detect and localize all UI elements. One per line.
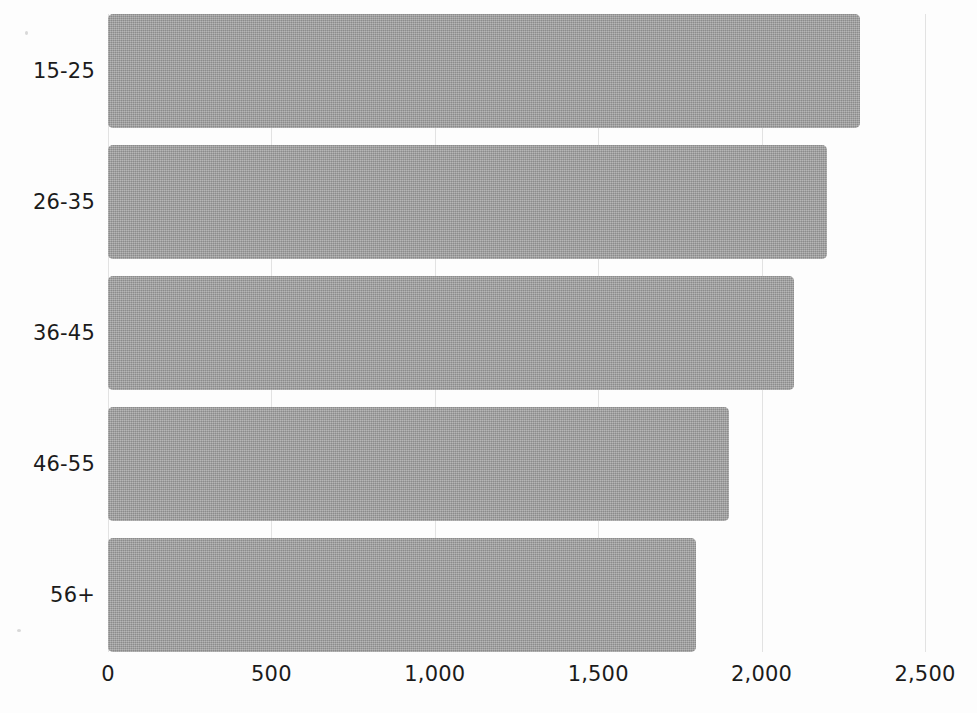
- bar-46-55: [108, 407, 729, 521]
- bar-chart-figure: 15-2526-3536-4546-5556+ 05001,0001,5002,…: [0, 0, 977, 713]
- x-axis-tick-label-1000: 1,000: [404, 662, 465, 686]
- bar-36-45: [108, 276, 794, 390]
- bar-26-35: [108, 145, 827, 259]
- x-axis-tick-label-2500: 2,500: [894, 662, 955, 686]
- bar-row: [108, 276, 794, 390]
- bar-56+: [108, 538, 696, 652]
- y-axis-label-26-35: 26-35: [0, 190, 95, 214]
- plot-area: [108, 14, 925, 652]
- x-axis-tick-label-2000: 2,000: [731, 662, 792, 686]
- y-axis-category-labels: 15-2526-3536-4546-5556+: [0, 14, 95, 652]
- y-axis-label-15-25: 15-25: [0, 59, 95, 83]
- bar-row: [108, 407, 729, 521]
- bar-15-25: [108, 14, 860, 128]
- x-axis-tick-label-1500: 1,500: [568, 662, 629, 686]
- y-axis-label-36-45: 36-45: [0, 321, 95, 345]
- bar-row: [108, 145, 827, 259]
- bar-row: [108, 538, 696, 652]
- bar-row: [108, 14, 860, 128]
- y-axis-label-46-55: 46-55: [0, 452, 95, 476]
- gridline-x-5: [925, 14, 926, 652]
- x-axis-tick-label-0: 0: [101, 662, 115, 686]
- x-axis-tick-label-500: 500: [251, 662, 292, 686]
- y-axis-label-56+: 56+: [0, 583, 95, 607]
- x-axis-tick-labels: 05001,0001,5002,0002,500: [108, 662, 925, 702]
